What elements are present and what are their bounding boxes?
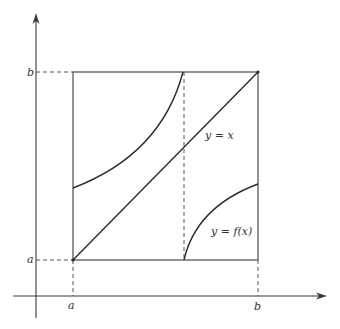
corner-point-b xyxy=(256,70,259,73)
x-axis xyxy=(13,293,327,300)
y-axis xyxy=(33,13,40,318)
y-label-b: b xyxy=(27,66,34,79)
y-label-a: a xyxy=(27,253,34,266)
function-label: y = f(x) xyxy=(210,225,252,238)
x-label-a: a xyxy=(68,299,75,312)
function-right-branch xyxy=(184,184,258,260)
diagram-canvas: b a a b y = x y = f(x) xyxy=(0,0,340,329)
identity-label: y = x xyxy=(204,129,234,142)
corner-point-a xyxy=(71,258,74,261)
function-left-branch xyxy=(73,72,183,188)
x-label-b: b xyxy=(254,300,261,313)
